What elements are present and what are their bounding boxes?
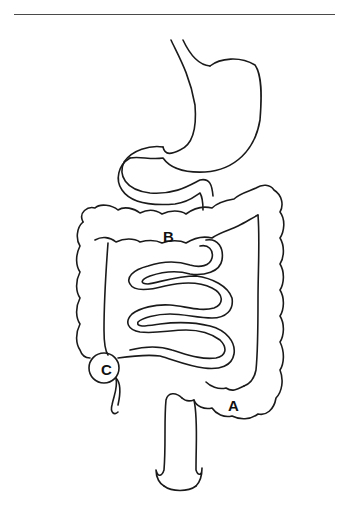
appendix [111, 378, 120, 414]
duodenum [118, 147, 213, 210]
large-intestine [77, 185, 284, 419]
small-intestine [118, 240, 234, 369]
label-b: B [163, 229, 174, 244]
rectum [156, 394, 202, 491]
label-c: C [101, 362, 112, 377]
esophagus [163, 40, 210, 153]
digestive-tract-diagram [0, 0, 343, 513]
label-a: A [228, 398, 239, 413]
